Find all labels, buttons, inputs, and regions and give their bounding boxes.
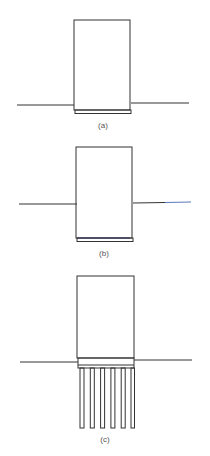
figure-label-b: (b) (99, 249, 109, 258)
figure-a: (a) (17, 20, 189, 130)
pile-6 (131, 368, 135, 428)
base-slab (75, 110, 131, 114)
pile-4 (111, 368, 115, 428)
block (74, 20, 130, 110)
figure-label-a: (a) (98, 121, 108, 130)
pile-3 (101, 368, 105, 428)
foundation-diagram: (a) (b) (c) (0, 0, 210, 456)
figure-label-c: (c) (100, 435, 110, 444)
figure-c: (c) (20, 276, 192, 444)
block (76, 147, 132, 238)
piles (80, 368, 135, 428)
pile-cap (78, 358, 134, 368)
pile-1 (80, 368, 84, 428)
ground-line-right-tail (165, 202, 191, 203)
base-slab (77, 238, 133, 242)
ground-line-right (133, 203, 165, 204)
figure-b: (b) (19, 147, 191, 258)
block (77, 276, 134, 358)
pile-5 (121, 368, 125, 428)
pile-2 (90, 368, 94, 428)
